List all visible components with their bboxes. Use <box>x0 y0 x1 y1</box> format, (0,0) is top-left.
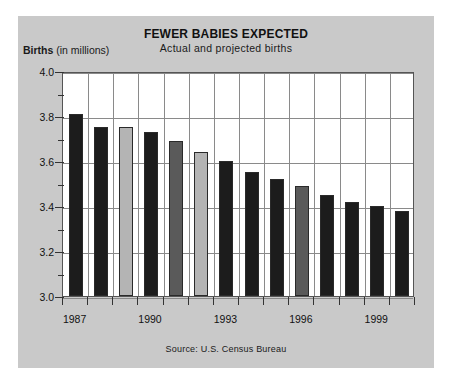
x-axis-tick-mark <box>213 297 214 305</box>
x-axis-tick-label: 1987 <box>63 313 86 325</box>
y-axis-tick-label: 3.4 <box>24 201 54 213</box>
x-axis-tick-mark <box>364 297 365 305</box>
x-axis-tick-mark <box>414 297 415 305</box>
source-note: Source: U.S. Census Bureau <box>0 344 452 354</box>
y-axis-tick-label: 3.6 <box>24 156 54 168</box>
x-axis-tick-mark <box>313 297 314 305</box>
y-axis-tick-mark <box>55 252 64 253</box>
plot-area <box>62 72 414 297</box>
y-axis-tick-mark <box>55 72 64 73</box>
bar <box>69 114 83 296</box>
bar-series <box>63 73 413 296</box>
y-axis-minor-tick <box>58 275 64 276</box>
chart-title: FEWER BABIES EXPECTED <box>0 27 452 41</box>
y-axis-tick-label: 3.2 <box>24 246 54 258</box>
bar <box>345 202 359 297</box>
chart-subtitle: Actual and projected births <box>0 42 452 54</box>
x-axis-tick-mark <box>263 297 264 305</box>
chart-figure: Births (in millions) FEWER BABIES EXPECT… <box>0 0 452 383</box>
x-axis-tick-mark <box>62 297 63 305</box>
y-axis-minor-tick <box>58 230 64 231</box>
y-axis-tick-label: 4.0 <box>24 66 54 78</box>
x-axis-tick-mark <box>112 297 113 305</box>
y-axis-minor-tick <box>58 185 64 186</box>
x-axis-tick-mark <box>288 297 289 305</box>
bar <box>194 152 208 296</box>
bar <box>169 141 183 296</box>
bar <box>94 127 108 296</box>
x-axis-tick-mark <box>188 297 189 305</box>
running-head <box>0 0 452 14</box>
x-axis-tick-mark <box>137 297 138 305</box>
x-axis-tick-label: 1996 <box>289 313 312 325</box>
x-axis-tick-mark <box>238 297 239 305</box>
bar <box>320 195 334 296</box>
x-axis-tick-mark <box>163 297 164 305</box>
bar <box>119 127 133 296</box>
y-axis-tick-label: 3.8 <box>24 111 54 123</box>
y-axis-minor-tick <box>58 140 64 141</box>
bar <box>219 161 233 296</box>
x-axis-tick-label: 1990 <box>138 313 161 325</box>
bar <box>395 211 409 297</box>
x-axis-tick-label: 1993 <box>214 313 237 325</box>
x-axis-tick-mark <box>389 297 390 305</box>
bar <box>270 179 284 296</box>
y-axis-tick-label: 3.0 <box>24 291 54 303</box>
bar <box>370 206 384 296</box>
y-axis-tick-mark <box>55 162 64 163</box>
x-axis-tick-label: 1999 <box>365 313 388 325</box>
bar <box>144 132 158 296</box>
x-axis-tick-mark <box>87 297 88 305</box>
y-axis-minor-tick <box>58 95 64 96</box>
bar <box>295 186 309 296</box>
x-axis-tick-mark <box>339 297 340 305</box>
y-axis-tick-mark <box>55 207 64 208</box>
y-axis-tick-mark <box>55 117 64 118</box>
bar <box>245 172 259 296</box>
